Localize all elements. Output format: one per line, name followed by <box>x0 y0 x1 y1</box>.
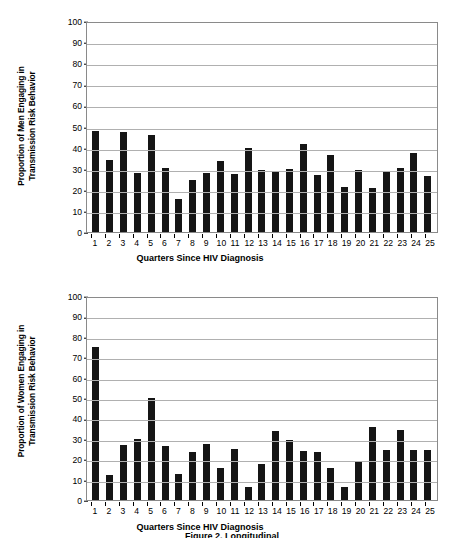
gridline <box>87 461 437 462</box>
bar <box>245 487 252 500</box>
bar <box>383 171 390 232</box>
bar <box>162 446 169 500</box>
gridline <box>87 318 437 319</box>
y-tick-label: 40 <box>72 144 82 153</box>
x-tick-label: 6 <box>161 506 168 516</box>
gridline <box>87 107 437 108</box>
bar <box>217 468 224 500</box>
x-tick-label: 10 <box>217 506 224 516</box>
bar <box>189 452 196 500</box>
bar <box>162 168 169 232</box>
x-tick-label: 15 <box>286 506 293 516</box>
y-tick-label: 40 <box>72 415 82 424</box>
x-tick-label: 11 <box>231 506 238 516</box>
bar <box>245 148 252 232</box>
y-tick-label: 50 <box>72 395 82 404</box>
x-tick-label: 23 <box>397 506 404 516</box>
gridline <box>87 171 437 172</box>
y-tick-label: 50 <box>72 123 82 132</box>
x-tick-label: 18 <box>328 506 335 516</box>
x-tick-label: 6 <box>161 238 168 248</box>
bar <box>217 161 224 232</box>
bar <box>134 173 141 232</box>
bar <box>272 172 279 232</box>
x-tick-label: 1 <box>91 238 98 248</box>
gridline <box>87 65 437 66</box>
y-tick-label: 60 <box>72 374 82 383</box>
y-axis-label-women: Proportion of Women Engaging in Transmis… <box>16 291 37 491</box>
bar <box>327 468 334 500</box>
x-tick-label: 10 <box>217 238 224 248</box>
y-tick-label: 0 <box>77 229 82 238</box>
x-tick-label: 20 <box>356 238 363 248</box>
bar <box>106 475 113 501</box>
plot-area-men <box>86 22 438 233</box>
x-tick-label: 21 <box>370 238 377 248</box>
gridline <box>87 482 437 483</box>
bar-series-men <box>87 23 437 232</box>
y-tick-label: 30 <box>72 165 82 174</box>
x-tick-label: 1 <box>91 506 98 516</box>
x-tick-label: 8 <box>189 238 196 248</box>
x-tick-label: 13 <box>258 506 265 516</box>
x-tick-label: 13 <box>258 238 265 248</box>
x-tick-label: 21 <box>370 506 377 516</box>
x-tick-label: 24 <box>411 238 418 248</box>
gridline <box>87 380 437 381</box>
gridline <box>87 339 437 340</box>
bar <box>355 170 362 232</box>
bar <box>120 132 127 232</box>
bar <box>314 452 321 500</box>
x-tick-label: 4 <box>133 238 140 248</box>
bar <box>148 398 155 500</box>
x-tick-label: 23 <box>397 238 404 248</box>
bar <box>383 450 390 500</box>
bar <box>286 169 293 232</box>
bar <box>175 474 182 500</box>
bar <box>92 347 99 500</box>
bar <box>203 173 210 232</box>
x-tick-label: 2 <box>105 506 112 516</box>
bar <box>369 188 376 232</box>
y-tick-label: 20 <box>72 187 82 196</box>
x-tick-label: 3 <box>119 238 126 248</box>
y-tick-label: 60 <box>72 102 82 111</box>
bar <box>327 155 334 232</box>
bar-chart-men: Proportion of Men Engaging in Transmissi… <box>0 0 464 269</box>
x-tick-label: 8 <box>189 506 196 516</box>
y-axis-label-men: Proportion of Men Engaging in Transmissi… <box>16 26 37 226</box>
x-tick-label: 11 <box>231 238 238 248</box>
bar <box>231 174 238 232</box>
x-tick-label: 18 <box>328 238 335 248</box>
x-tick-label: 7 <box>175 238 182 248</box>
y-tick-label: 90 <box>72 313 82 322</box>
x-tick-label: 4 <box>133 506 140 516</box>
bar <box>258 170 265 232</box>
y-tick-label: 20 <box>72 456 82 465</box>
y-tick-label: 70 <box>72 81 82 90</box>
x-tick-label: 16 <box>300 238 307 248</box>
x-tick-label: 12 <box>244 506 251 516</box>
x-tick-label: 19 <box>342 238 349 248</box>
bar <box>300 451 307 500</box>
gridline <box>87 192 437 193</box>
bar <box>424 450 431 500</box>
x-tick-label: 9 <box>203 506 210 516</box>
gridline <box>87 44 437 45</box>
y-tick-label: 70 <box>72 354 82 363</box>
gridline <box>87 213 437 214</box>
y-tick-label: 100 <box>68 293 82 302</box>
x-tick-label: 12 <box>244 238 251 248</box>
x-tick-label: 9 <box>203 238 210 248</box>
bar <box>300 144 307 232</box>
y-axis-ticks-men: 0102030405060708090100 <box>60 22 82 233</box>
bar <box>397 168 404 232</box>
gridline <box>87 441 437 442</box>
y-tick-label: 90 <box>72 39 82 48</box>
figure-caption: Figure 2. Longitudinal <box>0 531 464 538</box>
gridline <box>87 420 437 421</box>
bar-series-women <box>87 298 437 500</box>
bar <box>175 199 182 232</box>
x-tick-label: 22 <box>383 506 390 516</box>
bar-chart-women: Proportion of Women Engaging in Transmis… <box>0 275 464 538</box>
